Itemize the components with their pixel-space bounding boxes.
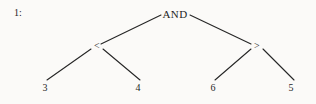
figure-index-label: 1: (14, 8, 22, 18)
figure-canvas: 1: AND < > 3 4 6 5 (0, 0, 316, 104)
tree-node-left-operator: < (94, 41, 100, 51)
tree-node-right-operator: > (254, 41, 260, 51)
tree-leaf-1: 3 (43, 83, 48, 93)
edge-right-operator-to-leaf-5 (263, 49, 294, 80)
tree-leaf-3: 6 (211, 83, 216, 93)
edge-left-operator-to-leaf-3 (47, 49, 91, 80)
edge-left-operator-to-leaf-4 (103, 49, 140, 80)
edge-root-to-right-operator (190, 15, 251, 44)
tree-leaf-2: 4 (136, 83, 141, 93)
tree-leaf-4: 5 (289, 83, 294, 93)
tree-node-root: AND (162, 9, 187, 20)
edge-root-to-left-operator (101, 15, 161, 44)
edge-right-operator-to-leaf-6 (215, 49, 251, 80)
